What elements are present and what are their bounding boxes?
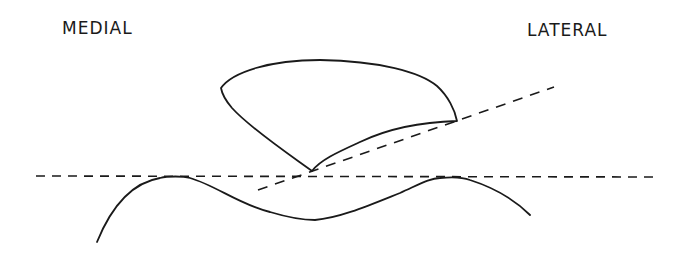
horizontal-reference-line bbox=[36, 176, 660, 177]
diagram-canvas bbox=[0, 0, 686, 256]
lower-wave-surface bbox=[97, 177, 530, 243]
oblique-reference-line bbox=[258, 87, 554, 190]
upper-wedge-shape bbox=[221, 60, 457, 171]
